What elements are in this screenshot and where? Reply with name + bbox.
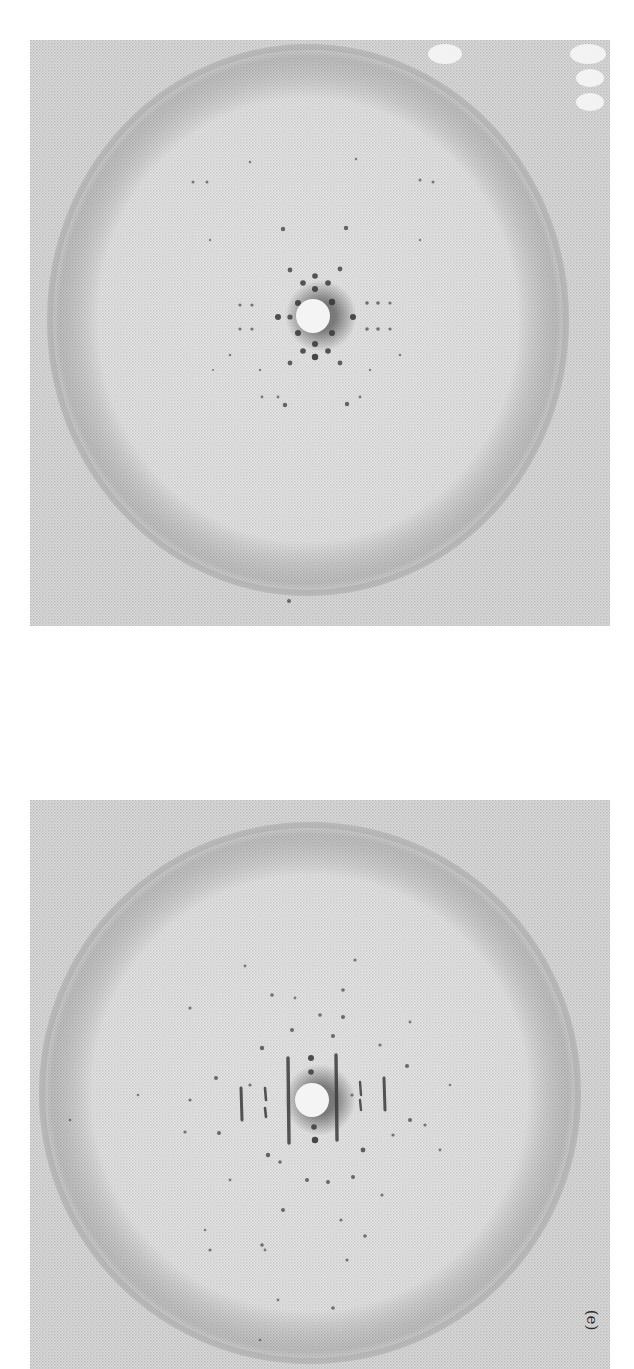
diffraction-pattern-top xyxy=(30,40,610,626)
panel-label: (e) xyxy=(580,1308,604,1332)
diffraction-plate-bottom xyxy=(30,800,610,1369)
diffraction-plate-top xyxy=(30,40,610,626)
diffraction-pattern-bottom xyxy=(30,800,610,1369)
